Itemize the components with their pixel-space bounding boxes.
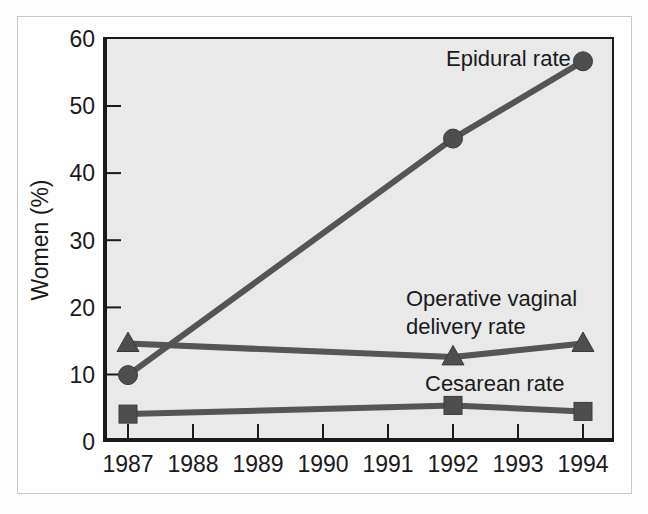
- y-tick-label-20: 20: [69, 295, 95, 321]
- annotation-operative-vaginal-line1: Operative vaginal: [406, 286, 577, 311]
- x-tick-label-1988: 1988: [167, 451, 218, 477]
- x-axis-tick-labels: 1987 1988 1989 1990 1991 1992 1993 1994: [102, 451, 608, 477]
- line-chart: 60 50 40 30 20 10 0 1987 1988 1989 1990 …: [0, 0, 648, 514]
- data-point-epidural-1987: [119, 366, 138, 385]
- x-tick-label-1990: 1990: [297, 451, 348, 477]
- y-tick-label-50: 50: [69, 93, 95, 119]
- y-tick-label-30: 30: [69, 228, 95, 254]
- annotation-operative-vaginal-line2: delivery rate: [406, 314, 526, 339]
- annotation-cesarean-rate: Cesarean rate: [425, 371, 564, 396]
- annotation-epidural-rate: Epidural rate: [446, 46, 571, 71]
- data-point-cesarean-1992: [444, 396, 462, 414]
- x-tick-label-1993: 1993: [492, 451, 543, 477]
- y-tick-label-10: 10: [69, 362, 95, 388]
- data-point-cesarean-1994: [574, 402, 592, 420]
- x-tick-label-1989: 1989: [232, 451, 283, 477]
- y-axis-tick-labels: 60 50 40 30 20 10 0: [69, 26, 95, 455]
- x-tick-label-1987: 1987: [102, 451, 153, 477]
- x-tick-label-1992: 1992: [427, 451, 478, 477]
- y-tick-label-60: 60: [69, 26, 95, 52]
- y-tick-label-0: 0: [82, 429, 95, 455]
- figure-root: 60 50 40 30 20 10 0 1987 1988 1989 1990 …: [0, 0, 648, 514]
- x-tick-label-1994: 1994: [557, 451, 608, 477]
- x-tick-label-1991: 1991: [362, 451, 413, 477]
- data-point-epidural-1992: [444, 129, 463, 148]
- y-axis-title: Women (%): [27, 180, 53, 301]
- data-point-cesarean-1987: [119, 405, 137, 423]
- data-point-epidural-1994: [574, 52, 593, 71]
- y-tick-label-40: 40: [69, 160, 95, 186]
